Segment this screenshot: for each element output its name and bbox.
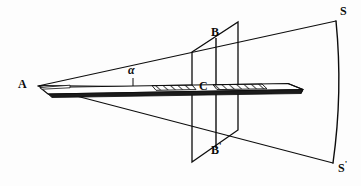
figure-root: A α B B' C S S' xyxy=(0,0,361,186)
cone-lower-edge xyxy=(38,86,333,163)
rod-hatch-left xyxy=(152,85,196,90)
label-apex-A: A xyxy=(18,78,27,90)
label-screen-S: S xyxy=(340,5,347,17)
label-angle-alpha: α xyxy=(128,64,135,76)
label-S-prime-letter: S xyxy=(338,161,345,175)
label-point-B-prime: B' xyxy=(211,144,222,156)
label-B-prime-letter: B xyxy=(211,143,219,157)
cone-upper-edge xyxy=(38,21,336,86)
label-screen-S-prime: S' xyxy=(338,162,347,174)
curved-screen xyxy=(333,21,339,163)
label-B-prime-mark: ' xyxy=(219,141,222,151)
diagram-canvas xyxy=(0,0,361,186)
label-point-B: B xyxy=(211,26,219,38)
label-S-prime-mark: ' xyxy=(345,159,348,169)
rod-hatch-right xyxy=(213,84,267,90)
label-point-C: C xyxy=(199,80,208,92)
